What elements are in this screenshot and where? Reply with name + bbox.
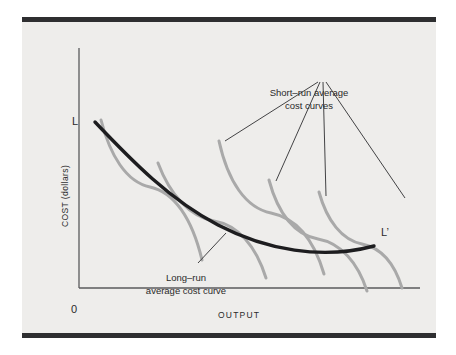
bottom-rule: [22, 333, 436, 338]
leader-line-2: [276, 82, 320, 181]
long-run-leader-line: [198, 233, 226, 263]
short-run-curve-3: [219, 141, 324, 274]
long-run-average-cost-curve: [95, 122, 374, 252]
leader-line-1: [225, 82, 318, 141]
short-run-curve-1: [101, 120, 202, 260]
chart-plate: COST (dollars) OUTPUT 0 L L’ Short–run a…: [22, 22, 436, 333]
chart-canvas: [22, 22, 436, 333]
short-run-leader-lines: [225, 82, 405, 198]
figure-root: COST (dollars) OUTPUT 0 L L’ Short–run a…: [0, 0, 456, 355]
short-run-curve-group: [101, 120, 402, 291]
leader-line-3: [323, 82, 326, 196]
axis-lines: [79, 48, 420, 288]
short-run-curve-4: [269, 180, 367, 291]
leader-line-4: [326, 82, 405, 198]
